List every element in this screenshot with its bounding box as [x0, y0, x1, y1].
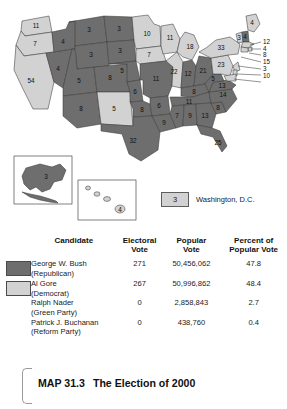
row-swatch-cell	[0, 259, 31, 278]
label-id: 4	[61, 38, 65, 45]
label-or: 7	[33, 40, 37, 47]
row-popular-vote: 50,996,862	[163, 279, 221, 298]
label-wy: 3	[89, 51, 93, 58]
label-mt: 3	[87, 26, 91, 33]
row-candidate-cell: Patrick J. Buchanan (Reform Party)	[31, 318, 117, 337]
caption-number: MAP 31.3	[38, 377, 85, 389]
state-co	[94, 64, 130, 92]
header-electoral-line1: Electoral	[117, 236, 163, 245]
row-electoral-vote: 0	[117, 298, 163, 317]
swatch-bush	[6, 261, 31, 276]
label-ak: 3	[44, 173, 48, 180]
label-ky: 8	[192, 88, 196, 95]
label-az: 8	[79, 105, 83, 112]
label-ia: 7	[147, 51, 151, 58]
label-nc: 14	[219, 91, 227, 98]
label-ut: 5	[77, 77, 81, 84]
table-row: Patrick J. Buchanan (Reform Party) 0 438…	[0, 318, 287, 337]
candidate-party: (Green Party)	[31, 308, 117, 318]
row-percent: 47.8	[220, 259, 287, 278]
row-popular-vote: 50,456,062	[163, 259, 221, 278]
label-ok: 8	[140, 106, 144, 113]
label-nv: 4	[56, 65, 60, 72]
label-ny: 33	[217, 44, 225, 51]
state-fl	[197, 125, 227, 152]
label-sd: 3	[118, 47, 122, 54]
row-popular-vote: 2,858,843	[163, 298, 221, 317]
table-row: Ralph Nader (Green Party) 0 2,858,843 2.…	[0, 298, 287, 317]
state-id	[52, 21, 77, 52]
hawaii-oahu	[94, 192, 100, 196]
header-percent: Percent of Popular Vote	[220, 236, 287, 259]
caption-bracket-rule	[22, 368, 32, 404]
header-electoral-line2: Vote	[117, 245, 163, 254]
table-header-row: Candidate Electoral Vote Popular Vote	[0, 236, 287, 259]
label-tn: 11	[186, 98, 193, 105]
label-mo: 11	[153, 75, 160, 82]
row-candidate-cell: Al Gore (Democrat)	[31, 279, 117, 298]
label-ma: 12	[263, 38, 271, 45]
label-vt: 3	[237, 34, 241, 41]
label-il: 22	[170, 68, 178, 75]
row-candidate-cell: George W. Bush (Republican)	[31, 259, 117, 278]
label-mn: 10	[143, 30, 151, 37]
label-in: 12	[184, 70, 192, 77]
hawaii-maui	[104, 197, 111, 202]
row-popular-vote: 438,760	[163, 318, 221, 337]
candidate-name: Patrick J. Buchanan	[31, 318, 117, 328]
label-ga: 13	[201, 112, 209, 119]
label-co: 8	[108, 74, 112, 81]
row-electoral-vote: 0	[117, 318, 163, 337]
header-percent-line2: Popular Vote	[220, 245, 287, 254]
label-ar: 6	[157, 102, 161, 109]
row-electoral-vote: 271	[117, 259, 163, 278]
election-map-figure: .st{stroke:#3a3a3a;stroke-width:0.55;str…	[0, 0, 287, 409]
row-electoral-vote: 267	[117, 279, 163, 298]
label-wi: 11	[167, 34, 174, 41]
label-wa: 11	[33, 22, 40, 29]
label-oh: 21	[199, 67, 207, 74]
header-popular-line1: Popular	[163, 236, 221, 245]
label-md: 10	[263, 72, 271, 79]
candidate-party: (Republican)	[31, 269, 117, 279]
candidate-party: (Reform Party)	[31, 327, 117, 337]
header-popular-vote: Popular Vote	[163, 236, 221, 259]
label-hi: 4	[118, 206, 122, 213]
label-va: 13	[218, 82, 226, 89]
dc-legend-label: Washington, D.C.	[196, 195, 255, 204]
header-percent-line1: Percent of	[220, 236, 287, 245]
header-candidate: Candidate	[31, 236, 117, 259]
row-swatch-cell	[0, 298, 31, 317]
candidate-party: (Democrat)	[31, 289, 117, 299]
label-la: 9	[162, 119, 166, 126]
label-nd: 3	[117, 25, 121, 32]
label-nj: 15	[263, 58, 271, 65]
label-al: 9	[188, 112, 192, 119]
label-me: 4	[250, 19, 254, 26]
label-mi: 18	[186, 43, 194, 50]
row-percent: 48.4	[220, 279, 287, 298]
label-ne: 5	[120, 67, 124, 74]
swatch-none	[6, 300, 29, 313]
results-table: Candidate Electoral Vote Popular Vote	[0, 236, 287, 337]
dc-legend: 3 Washington, D.C.	[161, 192, 255, 207]
label-pa: 23	[217, 61, 225, 68]
caption-text: MAP 31.3The Election of 2000	[38, 377, 195, 389]
label-ca: 54	[27, 77, 35, 84]
table-row: Al Gore (Democrat) 267 50,996,862 48.4	[0, 279, 287, 298]
label-ct: 8	[263, 51, 267, 58]
header-popular-line2: Vote	[163, 245, 221, 254]
candidate-name: Ralph Nader	[31, 298, 117, 308]
table-row: George W. Bush (Republican) 271 50,456,0…	[0, 259, 287, 278]
label-tx: 32	[129, 137, 137, 144]
state-ct	[241, 47, 248, 52]
dc-swatch: 3	[161, 192, 189, 207]
header-electoral-vote: Electoral Vote	[117, 236, 163, 259]
candidate-name: George W. Bush	[31, 259, 117, 269]
row-percent: 0.4	[220, 318, 287, 337]
label-fl: 25	[214, 139, 222, 146]
row-swatch-cell	[0, 318, 31, 337]
row-candidate-cell: Ralph Nader (Green Party)	[31, 298, 117, 317]
swatch-none	[6, 320, 29, 333]
header-swatch-spacer	[0, 236, 31, 259]
